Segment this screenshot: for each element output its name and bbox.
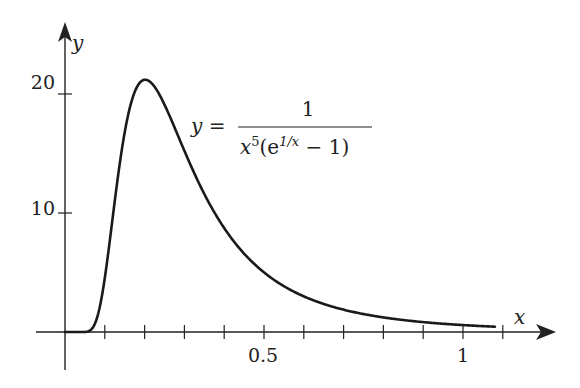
function-plot: 0.5 1 10 20 x y y = 1 x5(e1/x − 1) [0, 0, 580, 388]
x-axis-label: x [514, 305, 525, 329]
y-tick-label-20: 20 [31, 71, 55, 93]
x-tick-label-0.5: 0.5 [248, 344, 278, 366]
equation-denominator: x5(e1/x − 1) [240, 134, 349, 159]
y-axis-label: y [71, 31, 84, 55]
equation-lhs: y = [190, 114, 225, 138]
axes [36, 22, 556, 370]
function-curve [65, 80, 495, 332]
x-tick-label-1: 1 [457, 344, 469, 366]
equation-numerator: 1 [302, 97, 315, 121]
y-tick-label-10: 10 [31, 197, 55, 219]
equation-annotation: y = 1 x5(e1/x − 1) [190, 97, 372, 159]
